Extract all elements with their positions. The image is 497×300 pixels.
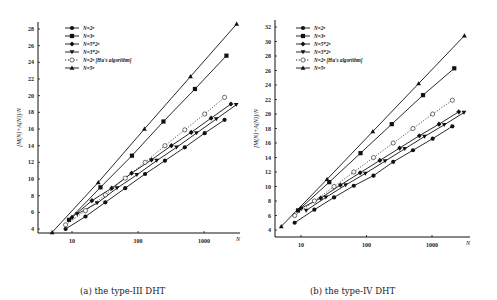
data-point-marker <box>462 33 467 37</box>
data-point-marker <box>397 145 402 150</box>
data-point-marker <box>371 174 375 178</box>
legend-entry: N=2ⁿ <box>313 25 325 31</box>
y-tick-label: 16 <box>265 140 271 146</box>
legend-entry: N=5*2ⁿ <box>313 41 330 47</box>
legend-entry: N=3*2ⁿ <box>313 49 330 55</box>
legend-entry: N=2ⁿ [Hu's algorithm] <box>313 57 363 64</box>
data-point-marker <box>450 98 454 102</box>
data-point-marker <box>363 172 368 176</box>
x-axis-label: N <box>465 240 471 246</box>
x-tick-label: 1000 <box>426 242 438 248</box>
data-point-marker <box>391 160 395 164</box>
y-axis-label: [M(N)+A(N)]/N <box>253 108 260 148</box>
data-point-marker <box>450 124 454 128</box>
data-point-marker <box>390 122 394 126</box>
data-point-marker <box>452 66 456 70</box>
y-tick-label: 18 <box>265 126 271 132</box>
data-point-marker <box>304 209 309 213</box>
data-point-marker <box>411 148 415 152</box>
y-tick-label: 22 <box>265 97 271 103</box>
data-point-marker <box>301 58 305 62</box>
data-point-marker <box>301 34 305 38</box>
data-point-marker <box>332 184 336 188</box>
data-point-marker <box>293 221 297 225</box>
y-tick-label: 24 <box>265 82 271 88</box>
caption-type-iv: (b) the type-IV DHT <box>310 286 395 296</box>
x-tick-label: 100 <box>362 242 371 248</box>
data-point-marker <box>371 155 375 159</box>
legend-entry: N=5ⁿ <box>313 65 325 71</box>
caption-type-iii: (a) the type-III DHT <box>80 286 165 296</box>
panel-type-iv: 468101214161820222426283032101001000N[M(… <box>0 0 248 260</box>
legend: N=2ⁿN=3ⁿN=5*2ⁿN=3*2ⁿN=2ⁿ [Hu's algorithm… <box>296 25 363 71</box>
data-point-marker <box>358 151 362 155</box>
data-point-marker <box>431 137 435 141</box>
y-tick-label: 14 <box>265 155 271 161</box>
data-point-marker <box>352 184 356 188</box>
data-point-marker <box>301 26 305 30</box>
data-point-marker <box>411 126 415 130</box>
y-tick-label: 28 <box>265 53 271 59</box>
data-point-marker <box>456 109 461 114</box>
data-point-marker <box>352 170 356 174</box>
data-point-marker <box>383 159 388 163</box>
data-point-marker <box>377 158 382 163</box>
data-point-marker <box>422 135 427 139</box>
data-point-marker <box>358 170 363 175</box>
y-tick-label: 30 <box>265 39 271 45</box>
y-tick-label: 6 <box>268 213 271 219</box>
y-tick-label: 4 <box>268 227 271 233</box>
data-point-marker <box>343 183 348 187</box>
y-tick-label: 10 <box>265 184 271 190</box>
data-point-marker <box>437 122 442 127</box>
data-point-marker <box>431 112 435 116</box>
legend-entry: N=3ⁿ <box>313 33 325 39</box>
data-point-marker <box>462 111 467 115</box>
data-point-marker <box>417 133 422 138</box>
y-tick-label: 8 <box>268 198 271 204</box>
data-point-marker <box>312 199 316 203</box>
chart-type-iv: 468101214161820222426283032101001000N[M(… <box>0 0 497 260</box>
x-tick-label: 10 <box>298 242 304 248</box>
series-n-3-2-n <box>304 111 467 213</box>
data-point-marker <box>442 123 447 127</box>
series-n-2-n <box>293 124 455 225</box>
y-tick-label: 32 <box>265 24 271 30</box>
data-point-marker <box>312 208 316 212</box>
y-tick-label: 20 <box>265 111 271 117</box>
data-point-marker <box>391 141 395 145</box>
y-tick-label: 12 <box>265 169 271 175</box>
series-n-5-n <box>279 33 467 228</box>
data-point-marker <box>301 41 306 46</box>
y-tick-label: 26 <box>265 68 271 74</box>
data-point-marker <box>421 93 425 97</box>
data-point-marker <box>402 147 407 151</box>
data-point-marker <box>332 195 336 199</box>
